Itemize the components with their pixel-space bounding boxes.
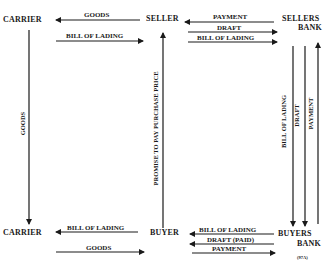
node-sellers-bank-line1: SELLERS xyxy=(282,14,319,23)
label-bol-bottom-left: BILL OF LADING xyxy=(67,224,124,232)
label-payment-vertical: PAYMENT xyxy=(307,96,314,132)
label-payment-top: PAYMENT xyxy=(213,13,247,21)
label-draft-paid: DRAFT (PAID) xyxy=(207,236,254,244)
label-promise-vertical: PROMISE TO PAY PURCHASE PRICE xyxy=(152,69,159,189)
label-goods-vertical: GOODS xyxy=(19,109,26,139)
node-carrier-bottom: CARRIER xyxy=(3,228,42,237)
node-sellers-bank-line2: BANK xyxy=(298,23,322,32)
node-seller: SELLER xyxy=(146,14,179,23)
label-goods-top: GOODS xyxy=(84,11,109,19)
label-bol-vertical: BILL OF LADING xyxy=(280,92,287,152)
label-bol-top-right: BILL OF LADING xyxy=(197,34,254,42)
figure-code: (97A) xyxy=(297,255,308,260)
label-draft-top: DRAFT xyxy=(217,24,241,32)
label-payment-bottom: PAYMENT xyxy=(212,245,246,253)
label-draft-vertical: DRAFT xyxy=(293,104,300,128)
node-carrier-top: CARRIER xyxy=(3,15,42,24)
node-buyer: BUYER xyxy=(150,228,179,237)
node-buyers-bank-line1: BUYERS xyxy=(278,229,312,238)
label-bol-top-left: BILL OF LADING xyxy=(66,32,123,40)
label-bol-bottom-right: BILL OF LADING xyxy=(199,226,256,234)
label-goods-bottom: GOODS xyxy=(86,244,111,252)
node-buyers-bank-line2: BANK xyxy=(297,239,321,248)
